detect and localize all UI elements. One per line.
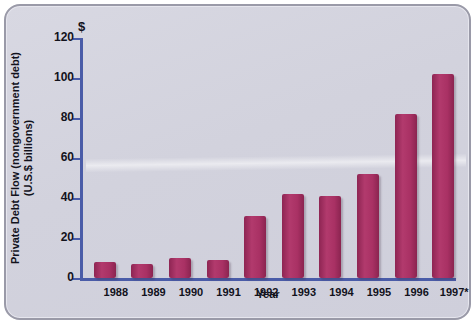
plot-area: 020406080100120 198819891990199119921993… — [80, 38, 456, 278]
bar — [131, 264, 153, 278]
y-axis-tick-mark — [73, 198, 81, 200]
y-axis-tick-mark — [73, 278, 81, 280]
bar — [432, 74, 454, 278]
y-axis-tick-label: 60 — [61, 150, 74, 164]
y-axis-tick-label: 20 — [61, 230, 74, 244]
y-axis-tick-mark — [73, 238, 81, 240]
y-axis-tick-mark — [73, 158, 81, 160]
y-axis-tick-label: 40 — [61, 190, 74, 204]
y-axis-tick-label: 0 — [67, 270, 74, 284]
bar — [207, 260, 229, 278]
bar — [319, 196, 341, 278]
bar — [94, 262, 116, 278]
y-axis-title: Private Debt Flow (nongovernment debt) (… — [8, 38, 36, 278]
y-axis-tick-mark — [73, 118, 81, 120]
bar — [169, 258, 191, 278]
bar — [244, 216, 266, 278]
y-axis-tick-label: 80 — [61, 110, 74, 124]
y-axis-tick-label: 120 — [54, 30, 74, 44]
y-axis-tick-mark — [73, 78, 81, 80]
y-axis-tick-mark — [73, 38, 81, 40]
bar — [395, 114, 417, 278]
chart-figure: $ Private Debt Flow (nongovernment debt)… — [0, 0, 475, 324]
currency-symbol: $ — [78, 19, 85, 34]
bar — [357, 174, 379, 278]
x-axis-title: Year — [80, 288, 456, 300]
y-axis-tick-label: 100 — [54, 70, 74, 84]
x-axis-line — [80, 278, 456, 281]
bar — [282, 194, 304, 278]
